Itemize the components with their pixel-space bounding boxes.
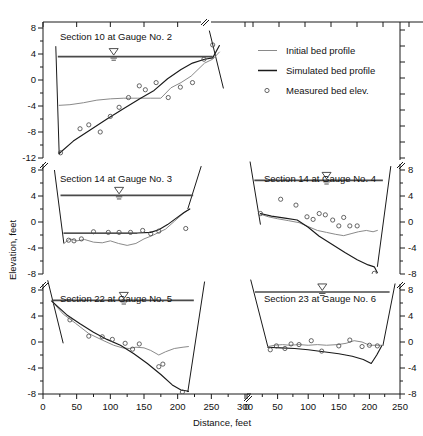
measured-bed-point	[268, 348, 272, 352]
legend-axis-rail	[400, 22, 405, 160]
x-tick-label: 0	[40, 401, 45, 412]
panel-title-section-23-gauge-6: Section 23 at Gauge No. 6	[264, 293, 376, 304]
y-tick-label: 0	[408, 336, 413, 347]
measured-bed-point	[331, 218, 335, 222]
panel-section-10-gauge-2: -12-8-4048Section 10 at Gauge No. 2	[22, 22, 223, 163]
top-rail-break	[201, 19, 209, 26]
simulated-bed-profile	[260, 214, 377, 273]
x-tick-label: 250	[392, 401, 408, 412]
water-surface-symbol	[115, 187, 124, 194]
measured-bed-point	[323, 213, 327, 217]
measured-bed-point	[317, 211, 321, 215]
y-tick-label: -4	[408, 242, 416, 253]
measured-bed-point	[128, 230, 132, 234]
y-tick-label: -8	[28, 126, 36, 137]
water-surface-symbol	[109, 49, 118, 56]
measured-bed-point	[166, 95, 170, 99]
panel-title-section-14-gauge-3: Section 14 at Gauge No. 3	[60, 173, 172, 184]
measured-bed-point	[126, 95, 130, 99]
measured-bed-point	[294, 203, 298, 207]
y-tick-label: 4	[408, 310, 413, 321]
bank-line-1	[383, 284, 395, 346]
measured-bed-point	[78, 127, 82, 131]
panel-section-14-gauge-4: -8-4048Section 14 at Gauge No. 4	[250, 162, 416, 280]
bank-line-0	[251, 280, 268, 347]
simulated-bed-profile	[59, 46, 219, 154]
y-tick-label: -12	[22, 152, 36, 163]
y-tick-label: -8	[408, 268, 416, 279]
initial-bed-profile	[52, 301, 189, 355]
legend-label-2: Measured bed elev.	[286, 85, 369, 96]
measured-bed-point	[161, 362, 165, 366]
measured-bed-point	[348, 338, 352, 342]
x-axis-title: Distance, feet	[193, 417, 251, 428]
x-tick-label: 100	[300, 401, 316, 412]
measured-bed-point	[110, 337, 114, 341]
y-tick-label: 8	[31, 284, 36, 295]
panel-title-section-10-gauge-2: Section 10 at Gauge No. 2	[60, 31, 172, 42]
legend: Initial bed profileSimulated bed profile…	[258, 45, 375, 96]
measured-bed-point	[123, 341, 127, 345]
bank-line-1	[188, 282, 205, 393]
panel-content	[56, 31, 224, 155]
measured-bed-point	[178, 85, 182, 89]
measured-bed-point	[360, 344, 364, 348]
break-slash	[201, 19, 207, 25]
measured-bed-point	[137, 84, 141, 88]
y-tick-label: -8	[28, 268, 36, 279]
measured-bed-point	[279, 197, 283, 201]
measured-bed-point	[106, 230, 110, 234]
panel-section-22-gauge-5: -8-4048050100150200250300Section 22 at G…	[28, 280, 253, 412]
x-tick-label: 150	[136, 401, 152, 412]
y-tick-label: -8	[28, 388, 36, 399]
measured-bed-point	[348, 224, 352, 228]
initial-bed-profile	[268, 341, 382, 347]
measured-bed-point	[154, 81, 158, 85]
measured-bed-point	[311, 217, 315, 221]
measured-bed-point	[305, 215, 309, 219]
y-tick-label: 0	[408, 216, 413, 227]
cross-section-figure: -12-8-4048Section 10 at Gauge No. 2-8-40…	[0, 0, 423, 436]
measured-bed-point	[87, 334, 91, 338]
y-tick-label: 0	[31, 336, 36, 347]
y-axis-break-right-upper	[397, 162, 405, 169]
x-tick-label: 200	[170, 401, 186, 412]
measured-bed-point	[375, 344, 379, 348]
measured-bed-point	[372, 271, 376, 275]
measured-bed-point	[141, 228, 145, 232]
y-axis-break-right-lower	[397, 282, 405, 289]
measured-bed-point	[143, 88, 147, 92]
legend-label-1: Simulated bed profile	[286, 65, 375, 76]
measured-bed-point	[157, 365, 161, 369]
simulated-bed-profile	[64, 209, 190, 233]
y-axis-title: Elevation, feet	[7, 220, 18, 281]
water-surface-symbol	[318, 284, 327, 291]
break-slash	[203, 20, 209, 26]
y-tick-label: 8	[408, 164, 413, 175]
panel-section-23-gauge-6: -8-4048050100150200250Section 23 at Gaug…	[244, 280, 416, 412]
y-axis-break-left-upper	[40, 162, 48, 169]
y-tick-label: 0	[31, 74, 36, 85]
measured-bed-point	[117, 230, 121, 234]
y-tick-label: 8	[31, 22, 36, 33]
y-tick-label: 8	[408, 284, 413, 295]
simulated-bed-profile	[268, 346, 382, 364]
y-tick-label: -4	[28, 242, 36, 253]
y-tick-label: -4	[28, 362, 36, 373]
top-rail	[43, 22, 423, 27]
measured-bed-point	[98, 130, 102, 134]
bank-line-1	[377, 166, 390, 267]
y-tick-label: 8	[31, 164, 36, 175]
measured-bed-point	[184, 226, 188, 230]
y-tick-label: 4	[31, 48, 36, 59]
y-tick-label: 4	[408, 190, 413, 201]
y-tick-label: 4	[31, 190, 36, 201]
measured-bed-point	[342, 215, 346, 219]
x-tick-label: 50	[272, 401, 283, 412]
x-tick-label: 0	[244, 401, 249, 412]
legend-marker-measured	[265, 88, 269, 92]
y-tick-label: -4	[408, 362, 416, 373]
measured-bed-point	[309, 339, 313, 343]
measured-bed-point	[137, 342, 141, 346]
measured-bed-point	[117, 105, 121, 109]
